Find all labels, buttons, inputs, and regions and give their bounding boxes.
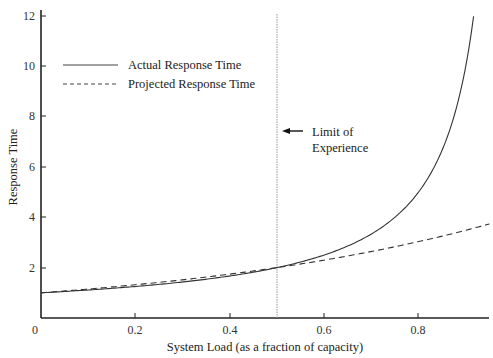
y-tick-label: 6 <box>29 160 35 174</box>
projected-response-time-line <box>41 224 489 293</box>
y-tick-label: 8 <box>29 109 35 123</box>
legend: Actual Response Time Projected Response … <box>63 58 256 91</box>
limit-annotation: Limit of Experience <box>282 125 369 155</box>
annotation-line-1: Limit of <box>312 125 354 139</box>
x-tick-label: 0.2 <box>128 323 143 337</box>
annotation-line-2: Experience <box>312 141 369 155</box>
x-axis-title: System Load (as a fraction of capacity) <box>167 340 363 354</box>
x-tick-labels: 0 0.2 0.4 0.6 0.8 <box>32 323 426 337</box>
x-tick-label: 0 <box>32 323 38 337</box>
actual-response-time-line <box>41 16 474 293</box>
x-tick-label: 0.6 <box>317 323 332 337</box>
legend-label-projected: Projected Response Time <box>128 77 256 91</box>
y-tick-label: 12 <box>23 9 35 23</box>
response-time-chart: 12 10 8 6 4 2 0 0.2 0.4 0.6 0.8 System L… <box>0 0 493 358</box>
x-tick-label: 0.8 <box>411 323 426 337</box>
legend-label-actual: Actual Response Time <box>128 58 242 72</box>
x-tick-label: 0.4 <box>223 323 238 337</box>
y-tick-label: 4 <box>29 210 35 224</box>
y-tick-label: 10 <box>23 59 35 73</box>
arrow-left-icon <box>282 128 290 134</box>
y-tick-label: 2 <box>29 261 35 275</box>
y-tick-labels: 12 10 8 6 4 2 <box>23 9 35 275</box>
y-axis-title: Response Time <box>6 128 20 205</box>
